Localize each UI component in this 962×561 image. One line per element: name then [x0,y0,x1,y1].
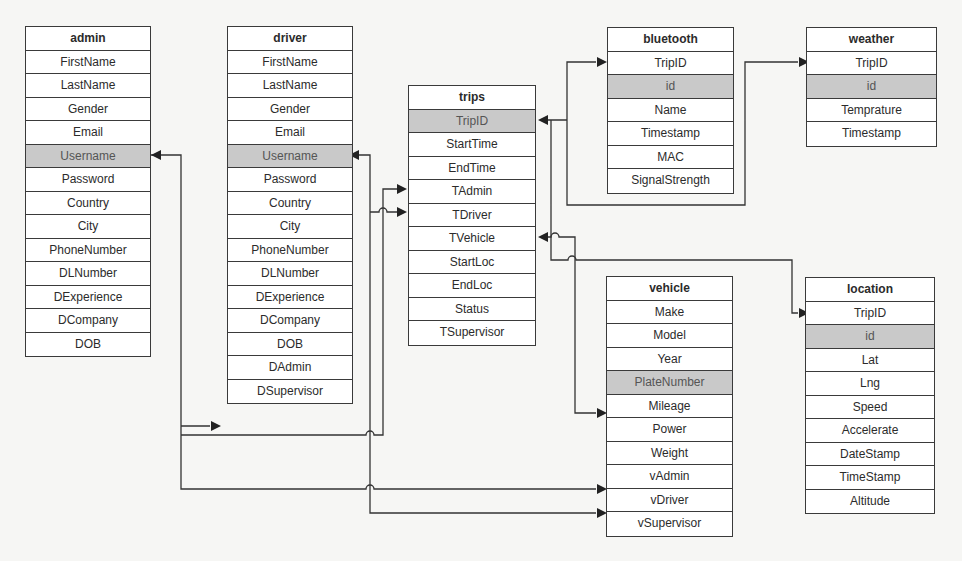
table-bluetooth[interactable]: bluetooth TripID id Name Timestamp MAC S… [607,27,734,194]
field-endtime: EndTime [409,157,535,181]
arrow-head-icon [397,207,407,217]
table-header: vehicle [607,277,732,301]
field-firstname: FirstName [228,51,352,75]
field-phonenumber: PhoneNumber [228,239,352,263]
field-dcompany: DCompany [228,309,352,333]
field-dcompany: DCompany [26,309,150,333]
field-dexperience: DExperience [26,286,150,310]
field-tdriver: TDriver [409,204,535,228]
field-email: Email [26,121,150,145]
field-password: Password [228,168,352,192]
field-timestamp: Timestamp [807,122,936,146]
field-accelerate: Accelerate [806,419,934,443]
field-vdriver: vDriver [607,489,732,513]
table-header: location [806,278,934,302]
field-phonenumber: PhoneNumber [26,239,150,263]
field-speed: Speed [806,396,934,420]
field-lastname: LastName [26,74,150,98]
field-weight: Weight [607,442,732,466]
field-dob: DOB [26,333,150,357]
table-header: weather [807,28,936,52]
field-datestamp: DateStamp [806,443,934,467]
field-dlnumber: DLNumber [228,262,352,286]
field-id-primary-key: id [806,325,934,349]
field-vsupervisor: vSupervisor [607,512,732,536]
field-platenumber-primary-key: PlateNumber [607,371,732,395]
field-mac: MAC [608,146,733,170]
field-altitude: Altitude [806,490,934,514]
field-gender: Gender [228,98,352,122]
field-id-primary-key: id [608,75,733,99]
field-status: Status [409,298,535,322]
field-dsupervisor: DSupervisor [228,380,352,404]
field-tripid: TripID [608,52,733,76]
field-country: Country [26,192,150,216]
table-admin[interactable]: admin FirstName LastName Gender Email Us… [25,26,151,357]
field-timestamp: TimeStamp [806,466,934,490]
field-password: Password [26,168,150,192]
field-gender: Gender [26,98,150,122]
table-weather[interactable]: weather TripID id Temprature Timestamp [806,27,937,147]
arrow-head-icon [151,150,161,160]
field-temprature: Temprature [807,99,936,123]
field-lat: Lat [806,349,934,373]
field-city: City [26,215,150,239]
field-tsupervisor: TSupervisor [409,321,535,345]
field-username-primary-key: Username [228,145,352,169]
arrow-head-icon [211,421,221,431]
arrow-head-icon [397,184,407,194]
field-tripid: TripID [807,52,936,76]
field-starttime: StartTime [409,133,535,157]
field-lng: Lng [806,372,934,396]
table-vehicle[interactable]: vehicle Make Model Year PlateNumber Mile… [606,276,733,537]
table-location[interactable]: location TripID id Lat Lng Speed Acceler… [805,277,935,514]
field-tripid-primary-key: TripID [409,110,535,134]
er-diagram: admin FirstName LastName Gender Email Us… [0,0,962,561]
arrow-head-icon [538,115,548,125]
field-city: City [228,215,352,239]
table-header: driver [228,27,352,51]
table-header: trips [409,86,535,110]
arrow-head-icon [597,57,607,67]
field-vadmin: vAdmin [607,465,732,489]
field-lastname: LastName [228,74,352,98]
field-username-primary-key: Username [26,145,150,169]
field-year: Year [607,348,732,372]
table-trips[interactable]: trips TripID StartTime EndTime TAdmin TD… [408,85,536,346]
field-mileage: Mileage [607,395,732,419]
field-id-primary-key: id [807,75,936,99]
field-power: Power [607,418,732,442]
field-timestamp: Timestamp [608,122,733,146]
field-dexperience: DExperience [228,286,352,310]
field-tadmin: TAdmin [409,180,535,204]
field-tripid: TripID [806,302,934,326]
connector-vehicle [548,233,596,413]
field-email: Email [228,121,352,145]
field-make: Make [607,301,732,325]
field-name: Name [608,99,733,123]
field-dlnumber: DLNumber [26,262,150,286]
table-header: bluetooth [608,28,733,52]
arrow-head-icon [538,232,548,242]
field-dob: DOB [228,333,352,357]
field-country: Country [228,192,352,216]
field-model: Model [607,324,732,348]
field-signalstrength: SignalStrength [608,169,733,193]
field-startloc: StartLoc [409,251,535,275]
field-endloc: EndLoc [409,274,535,298]
table-driver[interactable]: driver FirstName LastName Gender Email U… [227,26,353,404]
field-firstname: FirstName [26,51,150,75]
field-dadmin: DAdmin [228,356,352,380]
field-tvehicle: TVehicle [409,227,535,251]
table-header: admin [26,27,150,51]
